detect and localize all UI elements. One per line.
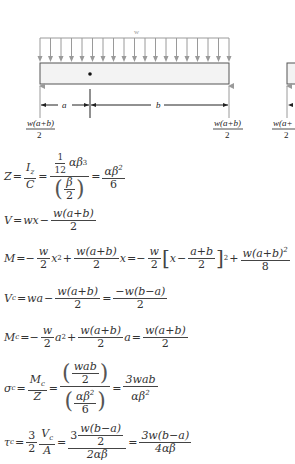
equation-section-modulus: Z= IzC= 112 αβ3 (β2) = αβ26 <box>4 150 126 202</box>
reaction-label-right: w(a+b) 2 <box>213 118 243 140</box>
load-arrowhead <box>111 56 116 62</box>
load-arrowhead <box>101 56 106 62</box>
load-arrowhead <box>206 56 211 62</box>
load-label: w <box>134 28 140 36</box>
load-arrowhead <box>90 56 95 62</box>
load-arrowhead <box>174 56 179 62</box>
load-arrowhead <box>195 56 200 62</box>
reaction-label-partial: w(a+ 2 <box>272 118 295 140</box>
load-arrowhead <box>164 56 169 62</box>
load-arrowhead <box>59 56 64 62</box>
load-arrowhead <box>185 56 190 62</box>
beam <box>40 63 229 84</box>
load-arrowhead <box>122 56 127 62</box>
load-arrowhead <box>216 56 221 62</box>
beam-partial-right <box>287 63 295 84</box>
svg-text:2: 2 <box>37 130 42 140</box>
dim-a-label: a <box>62 100 67 110</box>
load-arrowhead <box>48 56 53 62</box>
equation-shear-stress: τc= 32 VcA= 3w(b−a)2 2αβ = 3w(b−a)4αβ <box>4 422 192 462</box>
equation-shear-force: V=wx− w(a+b)2 <box>4 205 97 235</box>
dimension-b: b <box>91 100 228 110</box>
load-arrowhead <box>38 56 43 62</box>
load-arrowhead <box>153 56 158 62</box>
svg-text:w(a+b): w(a+b) <box>214 118 241 128</box>
dimension-partial <box>288 103 293 107</box>
svg-text:2: 2 <box>225 130 230 140</box>
equation-shear-at-c: Vc=wa− w(a+b)2= −w(b−a)2 <box>4 282 168 314</box>
equation-moment-at-c: Mc=− w2 a2+ w(a+b)2 a= w(a+b)2 <box>4 320 189 354</box>
equation-bending-stress: σc= McZ= (wab2) (αβ26) = 3wabαβ2 <box>4 358 159 418</box>
load-arrowhead <box>143 56 148 62</box>
load-arrowhead <box>80 56 85 62</box>
equation-bending-moment: M=− w2 x2+ w(a+b)2 x=− w2 [x− a+b2]2+ w(… <box>4 240 291 276</box>
beam-diagram: w a b w(a+b) 2 w(a+b) 2 w(a+ 2 <box>0 0 295 150</box>
section-point <box>88 72 92 76</box>
svg-text:w(a+: w(a+ <box>273 118 293 128</box>
load-arrowhead <box>132 56 137 62</box>
dimension-a: a <box>41 100 89 110</box>
load-arrowhead <box>69 56 74 62</box>
load-arrowhead <box>227 56 232 62</box>
svg-text:2: 2 <box>284 130 289 140</box>
reaction-label-left: w(a+b) 2 <box>26 118 55 140</box>
svg-text:w(a+b): w(a+b) <box>27 118 54 128</box>
distributed-load-arrows <box>38 38 232 62</box>
dim-b-label: b <box>156 100 161 110</box>
